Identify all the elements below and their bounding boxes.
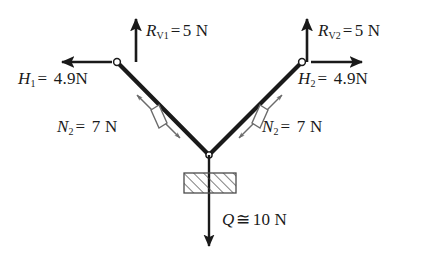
bar-right (210, 64, 300, 154)
label-q-value: 10 (253, 210, 270, 229)
label-h1-value: 4.9 (54, 69, 76, 88)
label-h1-unit: N (76, 69, 88, 88)
label-h2-value: 4.9 (334, 69, 356, 88)
label-normal-force-right: N2= 7 N (262, 118, 322, 137)
label-rv2-value: 5 (355, 21, 364, 40)
label-n2right-unit: N (310, 117, 322, 136)
label-h2-symbol: H (298, 69, 310, 88)
label-load: Q≅10 N (222, 211, 287, 228)
label-n2right-subscript: 2 (274, 126, 279, 137)
left-pin-joint-icon (114, 59, 121, 66)
label-rv2-unit: N (368, 21, 380, 40)
label-rv1-subscript: V1 (157, 30, 169, 41)
label-rv2-symbol: R (318, 21, 329, 40)
label-n2left-symbol: N (57, 117, 69, 136)
label-horizontal-right: H2= 4.9N (298, 70, 368, 89)
label-n2left-unit: N (105, 117, 117, 136)
label-n2right-symbol: N (262, 117, 274, 136)
label-rv1-symbol: R (146, 21, 157, 40)
right-pin-joint-icon (299, 59, 306, 66)
frame-bars (119, 64, 300, 154)
label-reaction-vertical-right: RV2=5 N (318, 22, 380, 41)
label-reaction-vertical-left: RV1=5 N (146, 22, 208, 41)
label-rv1-value: 5 (183, 21, 192, 40)
hatched-block-icon (184, 173, 236, 193)
label-q-symbol: Q (222, 210, 234, 229)
label-q-operator: ≅ (234, 210, 252, 229)
label-rv1-operator: = (169, 21, 183, 40)
label-rv2-subscript: V2 (329, 30, 341, 41)
label-h1-symbol: H (18, 69, 30, 88)
label-n2left-subscript: 2 (69, 126, 74, 137)
label-h2-unit: N (356, 69, 368, 88)
figure-canvas: RV1=5 N RV2=5 N H1= 4.9N H2= 4.9N N2= 7 … (0, 0, 424, 260)
label-n2left-operator: = (74, 117, 88, 136)
label-horizontal-left: H1= 4.9N (18, 70, 88, 89)
label-n2left-value: 7 (92, 117, 101, 136)
bar-left (119, 64, 208, 154)
label-n2right-value: 7 (297, 117, 306, 136)
label-rv2-operator: = (341, 21, 355, 40)
label-n2right-operator: = (279, 117, 293, 136)
label-q-unit: N (275, 210, 287, 229)
label-normal-force-left: N2= 7 N (57, 118, 117, 137)
label-h2-operator: = (315, 69, 329, 88)
label-rv1-unit: N (196, 21, 208, 40)
label-h1-operator: = (35, 69, 49, 88)
